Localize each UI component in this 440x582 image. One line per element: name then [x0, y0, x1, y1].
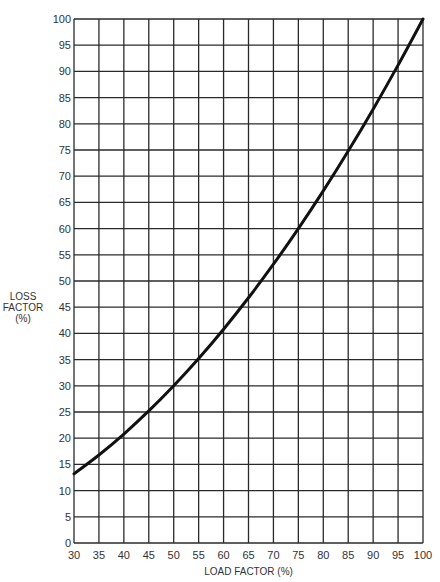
y-axis-label-line-2: FACTOR — [2, 302, 44, 313]
x-tick-label: 50 — [168, 549, 180, 561]
y-tick-label: 95 — [59, 39, 71, 51]
x-tick-label: 85 — [342, 549, 354, 561]
y-tick-label: 15 — [59, 458, 71, 470]
x-tick-label: 95 — [392, 549, 404, 561]
x-tick-label: 40 — [118, 549, 130, 561]
y-tick-label: 60 — [59, 223, 71, 235]
y-tick-label: 75 — [59, 144, 71, 156]
x-tick-label: 30 — [68, 549, 80, 561]
x-axis-tick-labels: 3035404550556065707580859095100 — [68, 549, 432, 561]
y-axis-label-line-3: (%) — [2, 313, 44, 324]
y-axis-label: LOSS FACTOR (%) — [2, 291, 44, 324]
x-tick-label: 55 — [193, 549, 205, 561]
y-tick-label: 10 — [59, 485, 71, 497]
x-tick-label: 90 — [367, 549, 379, 561]
x-tick-label: 80 — [317, 549, 329, 561]
y-tick-label: 65 — [59, 196, 71, 208]
y-axis-tick-labels: 0510152025303540455055606570758085909510… — [53, 13, 71, 549]
y-tick-label: 5 — [65, 511, 71, 523]
y-tick-label: 25 — [59, 406, 71, 418]
loss-factor-chart: 0510152025303540455055606570758085909510… — [0, 0, 440, 582]
x-tick-label: 45 — [143, 549, 155, 561]
x-tick-label: 65 — [242, 549, 254, 561]
y-tick-label: 100 — [53, 13, 71, 25]
x-tick-label: 35 — [93, 549, 105, 561]
y-tick-label: 35 — [59, 354, 71, 366]
y-tick-label: 45 — [59, 301, 71, 313]
x-tick-label: 100 — [414, 549, 432, 561]
x-tick-label: 60 — [217, 549, 229, 561]
y-tick-label: 85 — [59, 92, 71, 104]
y-tick-label: 20 — [59, 432, 71, 444]
y-tick-label: 70 — [59, 170, 71, 182]
y-axis-label-line-1: LOSS — [2, 291, 44, 302]
y-tick-label: 30 — [59, 380, 71, 392]
y-tick-label: 80 — [59, 118, 71, 130]
y-tick-label: 40 — [59, 327, 71, 339]
chart-grid — [74, 19, 423, 543]
y-tick-label: 55 — [59, 249, 71, 261]
x-axis-label: LOAD FACTOR (%) — [74, 566, 423, 577]
y-tick-label: 90 — [59, 65, 71, 77]
y-tick-label: 0 — [65, 537, 71, 549]
x-tick-label: 75 — [292, 549, 304, 561]
y-tick-label: 50 — [59, 275, 71, 287]
x-tick-label: 70 — [267, 549, 279, 561]
